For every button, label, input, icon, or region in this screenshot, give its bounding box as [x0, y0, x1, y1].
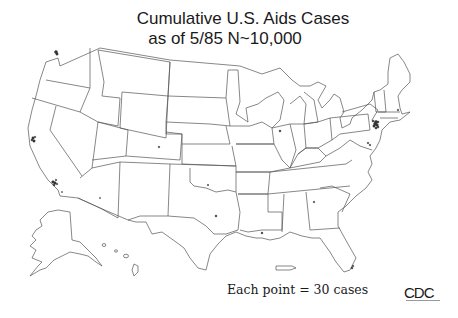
puerto-rico-outline	[276, 266, 296, 270]
us-state-map	[0, 0, 458, 318]
us-outline	[28, 48, 410, 272]
cdc-logo-underline	[406, 300, 440, 301]
state-borders	[32, 48, 400, 234]
alaska-outline	[30, 210, 102, 276]
cdc-logo: CDC	[404, 284, 434, 300]
hawaii-outline	[102, 244, 138, 277]
legend-dot-value: Each point = 30 cases	[227, 282, 368, 297]
